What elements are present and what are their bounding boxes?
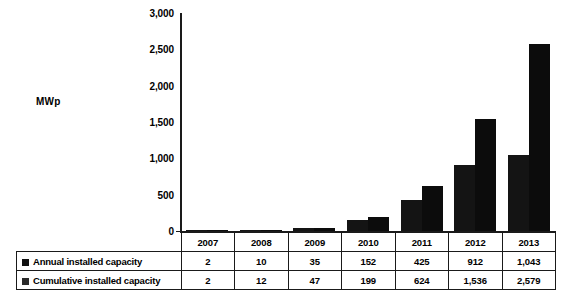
table-header-row: 2007200820092010201120122013 [17,233,556,252]
bar-annual-2009 [293,228,314,231]
table-cell: 12 [235,271,289,290]
table-cell: 199 [342,271,396,290]
table-cell: 152 [342,252,396,271]
table-cell: 624 [395,271,449,290]
bar-group-2008 [234,13,288,231]
bar-cumulative-2011 [422,186,443,231]
bar-annual-2012 [454,165,475,231]
table-column-header-2008: 2008 [235,233,289,252]
bar-annual-2013 [508,155,529,231]
legend-label: Annual installed capacity [33,256,142,267]
y-axis-title: MWp [36,96,60,107]
bar-cumulative-2013 [529,44,550,231]
legend-entry-cumulative: Cumulative installed capacity [17,271,182,290]
table-cell: 1,536 [449,271,503,290]
bar-group-2010 [341,13,395,231]
bar-group-2013 [502,13,556,231]
bar-annual-2008 [240,230,261,231]
legend-entry-annual: Annual installed capacity [17,252,182,271]
bar-cumulative-2007 [207,230,228,231]
table-column-header-2012: 2012 [449,233,503,252]
data-table: 2007200820092010201120122013Annual insta… [16,232,556,290]
bar-annual-2010 [347,220,368,231]
y-tick-label: 1,000 [149,153,174,164]
table-cell: 425 [395,252,449,271]
y-tick-label: 1,500 [149,117,174,128]
table-cell: 2 [181,252,235,271]
bar-annual-2011 [401,200,422,231]
table-cell: 1,043 [502,252,556,271]
table-cell: 10 [235,252,289,271]
bar-annual-2007 [186,230,207,231]
bar-cumulative-2012 [475,119,496,231]
bar-group-2012 [449,13,503,231]
bar-group-2007 [180,13,234,231]
bar-group-2011 [395,13,449,231]
table-row: Annual installed capacity210351524259121… [17,252,556,271]
table-row: Cumulative installed capacity21247199624… [17,271,556,290]
table-corner-cell [17,233,182,252]
table-cell: 2,579 [502,271,556,290]
bar-group-2009 [287,13,341,231]
y-tick-label: 3,000 [149,8,174,19]
table-column-header-2013: 2013 [502,233,556,252]
annual-series-swatch [22,259,29,266]
table-cell: 35 [288,252,342,271]
table-column-header-2009: 2009 [288,233,342,252]
chart-figure: MWp 3,0002,5002,0001,5001,0005000 200720… [0,0,566,291]
bar-cumulative-2010 [368,217,389,231]
table-cell: 47 [288,271,342,290]
table-cell: 2 [181,271,235,290]
table-column-header-2010: 2010 [342,233,396,252]
bar-cumulative-2009 [314,228,335,231]
cumulative-series-swatch [22,278,29,285]
y-tick-label: 2,500 [149,44,174,55]
bar-cumulative-2008 [261,230,282,231]
table-column-header-2011: 2011 [395,233,449,252]
table-column-header-2007: 2007 [181,233,235,252]
y-tick-label: 500 [158,189,174,200]
legend-label: Cumulative installed capacity [33,275,160,286]
plot-area: 3,0002,5002,0001,5001,0005000 [180,13,556,232]
y-tick-label: 2,000 [149,80,174,91]
table-cell: 912 [449,252,503,271]
